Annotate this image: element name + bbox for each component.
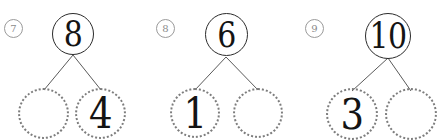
whole-value: 8 — [64, 16, 83, 51]
problem-8: 8 6 1 — [147, 0, 294, 140]
part-value-right: 4 — [89, 92, 112, 136]
problem-number-badge: 9 — [305, 19, 324, 38]
whole-circle[interactable]: 8 — [52, 13, 94, 55]
whole-circle[interactable]: 10 — [365, 13, 411, 59]
problem-7: 7 8 4 — [0, 0, 147, 140]
problem-number-badge: 8 — [156, 19, 175, 38]
connector-line-left — [352, 58, 388, 91]
part-circle-right[interactable]: 4 — [75, 88, 126, 139]
part-circle-left[interactable] — [18, 88, 69, 139]
problem-number-badge: 7 — [4, 19, 23, 38]
connector-line-right — [388, 58, 411, 91]
part-value-left: 3 — [341, 92, 364, 136]
part-circle-right[interactable] — [233, 88, 283, 138]
connector-line-left — [44, 55, 73, 90]
whole-value: 10 — [370, 18, 407, 53]
part-value-left: 1 — [184, 91, 207, 135]
part-circle-right[interactable] — [385, 88, 437, 140]
part-circle-left[interactable]: 3 — [326, 88, 378, 140]
whole-circle[interactable]: 6 — [205, 13, 248, 56]
worksheet-canvas: 7 8 4 8 6 1 9 — [0, 0, 441, 140]
connector-line-right — [73, 55, 101, 90]
connector-line-left — [195, 57, 226, 90]
connector-line-right — [226, 57, 258, 90]
problem-9: 9 10 3 — [294, 0, 441, 140]
part-circle-left[interactable]: 1 — [170, 88, 220, 138]
whole-value: 6 — [217, 17, 236, 52]
